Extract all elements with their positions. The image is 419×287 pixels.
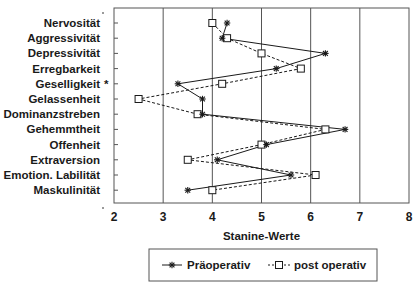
category-label: Gelassenheit bbox=[28, 93, 100, 105]
point-praeoperativ bbox=[342, 126, 348, 132]
point-post-operativ bbox=[219, 80, 226, 87]
series-line-post-operativ bbox=[139, 23, 326, 190]
point-post-operativ bbox=[258, 50, 265, 57]
x-tick-label-2: 2 bbox=[111, 210, 118, 224]
point-praeoperativ bbox=[288, 172, 294, 178]
point-praeoperativ bbox=[199, 111, 205, 117]
category-label: Erregbarkeit bbox=[32, 63, 100, 75]
legend: Präoperativpost operativ bbox=[149, 249, 377, 281]
category-label: Geselligkeit bbox=[35, 78, 100, 90]
point-praeoperativ bbox=[263, 141, 269, 147]
stanine-profile-chart: 2345678NervositätAggressivitätDepressivi… bbox=[0, 0, 419, 287]
x-tick-label-8: 8 bbox=[406, 210, 413, 224]
label-layer: 2345678NervositätAggressivitätDepressivi… bbox=[4, 12, 413, 224]
legend-label-praeoperativ: Präoperativ bbox=[187, 259, 251, 271]
category-label: Nervosität bbox=[44, 17, 100, 29]
x-tick-label-6: 6 bbox=[307, 210, 314, 224]
category-label: Offenheit bbox=[50, 139, 101, 151]
category-label: Gehemmtheit bbox=[27, 123, 101, 135]
x-tick-label-4: 4 bbox=[209, 210, 216, 224]
category-label: Maskulinität bbox=[34, 184, 101, 196]
category-label: Extraversion bbox=[30, 154, 100, 166]
point-praeoperativ bbox=[322, 50, 328, 56]
category-label: Emotion. Labilität bbox=[4, 169, 101, 181]
category-label: Depressivität bbox=[28, 47, 100, 59]
point-praeoperativ bbox=[219, 35, 225, 41]
category-label: Aggressivität bbox=[27, 32, 100, 44]
point-praeoperativ bbox=[175, 81, 181, 87]
legend-marker-praeoperativ bbox=[169, 262, 175, 268]
point-praeoperativ bbox=[273, 65, 279, 71]
series-layer bbox=[135, 20, 348, 194]
point-praeoperativ bbox=[224, 20, 230, 26]
category-label: Dominanzstreben bbox=[4, 108, 101, 120]
point-post-operativ bbox=[297, 65, 304, 72]
x-tick-label-5: 5 bbox=[258, 210, 265, 224]
grid-layer bbox=[114, 8, 409, 203]
category-marker: * bbox=[104, 78, 109, 90]
point-post-operativ bbox=[184, 156, 191, 163]
point-post-operativ bbox=[322, 126, 329, 133]
axis-corner-dot-bottom bbox=[102, 207, 104, 209]
point-praeoperativ bbox=[214, 157, 220, 163]
legend-label-post-operativ: post operativ bbox=[294, 259, 367, 271]
x-axis-title: Stanine-Werte bbox=[223, 230, 300, 242]
x-tick-label-3: 3 bbox=[160, 210, 167, 224]
point-praeoperativ bbox=[199, 96, 205, 102]
point-post-operativ bbox=[209, 187, 216, 194]
point-post-operativ bbox=[209, 20, 216, 27]
point-post-operativ bbox=[312, 172, 319, 179]
point-post-operativ bbox=[135, 96, 142, 103]
axis-corner-dot-top bbox=[102, 12, 104, 14]
point-praeoperativ bbox=[185, 187, 191, 193]
legend-marker-post-operativ bbox=[276, 262, 283, 269]
x-tick-label-7: 7 bbox=[356, 210, 363, 224]
